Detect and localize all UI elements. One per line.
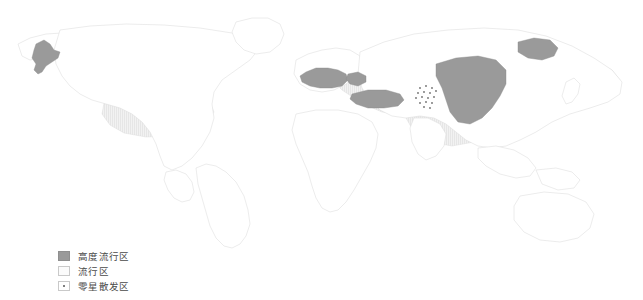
map-canvas: [0, 0, 643, 250]
legend-label-endemic: 流行区: [78, 266, 109, 277]
legend-swatch-high-endemic-icon: [58, 251, 70, 261]
legend-label-high-endemic: 高度流行区: [78, 251, 130, 262]
legend-item-high-endemic: 高度流行区: [58, 249, 298, 263]
legend-swatch-sporadic-icon: [58, 281, 70, 291]
legend-item-sporadic: 零星散发区: [58, 279, 298, 293]
map-legend: 高度流行区 流行区 零星散发区: [58, 249, 298, 295]
legend-item-endemic: 流行区: [58, 264, 298, 278]
world-distribution-map-figure: 高度流行区 流行区 零星散发区: [0, 0, 643, 300]
region-turkey-high-endemic: [350, 90, 404, 108]
legend-swatch-endemic-icon: [58, 266, 70, 276]
map-vector: [0, 0, 643, 250]
legend-sporadic-dot-icon: [63, 285, 65, 287]
legend-label-sporadic: 零星散发区: [78, 281, 130, 292]
